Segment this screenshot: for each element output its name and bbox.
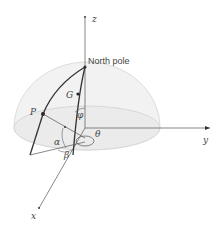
north-pole-label: North pole — [88, 56, 130, 66]
angle-alpha-label: α — [54, 137, 60, 147]
x-axis-label: x — [31, 211, 36, 221]
angle-phi-label: φ — [77, 110, 84, 120]
point-g-label: G — [66, 90, 73, 100]
spherical-coordinates-diagram: z y x North pole P G φ θ α β — [0, 0, 219, 229]
angle-beta-label: β — [63, 150, 69, 160]
y-axis-label: y — [202, 135, 209, 145]
point-p-label: P — [29, 107, 37, 117]
point-g — [76, 92, 79, 95]
z-axis-label: z — [91, 14, 97, 24]
angle-theta-label: θ — [95, 129, 101, 139]
